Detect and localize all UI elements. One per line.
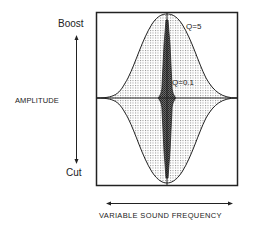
amplitude-arrow xyxy=(75,35,79,164)
frequency-label: VARIABLE SOUND FREQUENCY xyxy=(99,212,222,220)
narrow-band-q-label: Q=0.1 xyxy=(172,79,194,87)
amplitude-label: AMPLITUDE xyxy=(15,97,59,105)
wide-band-q-label: Q=5 xyxy=(186,23,201,31)
frequency-arrow xyxy=(106,202,233,206)
boost-label: Boost xyxy=(58,19,84,29)
cut-label: Cut xyxy=(66,168,82,178)
eq-diagram xyxy=(0,0,253,237)
